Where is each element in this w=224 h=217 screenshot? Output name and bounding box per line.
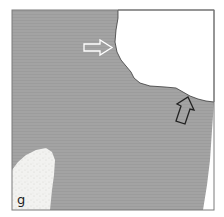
panel-label: g bbox=[17, 193, 25, 206]
micrograph-panel: g bbox=[0, 0, 224, 217]
micrograph-image bbox=[0, 0, 224, 217]
